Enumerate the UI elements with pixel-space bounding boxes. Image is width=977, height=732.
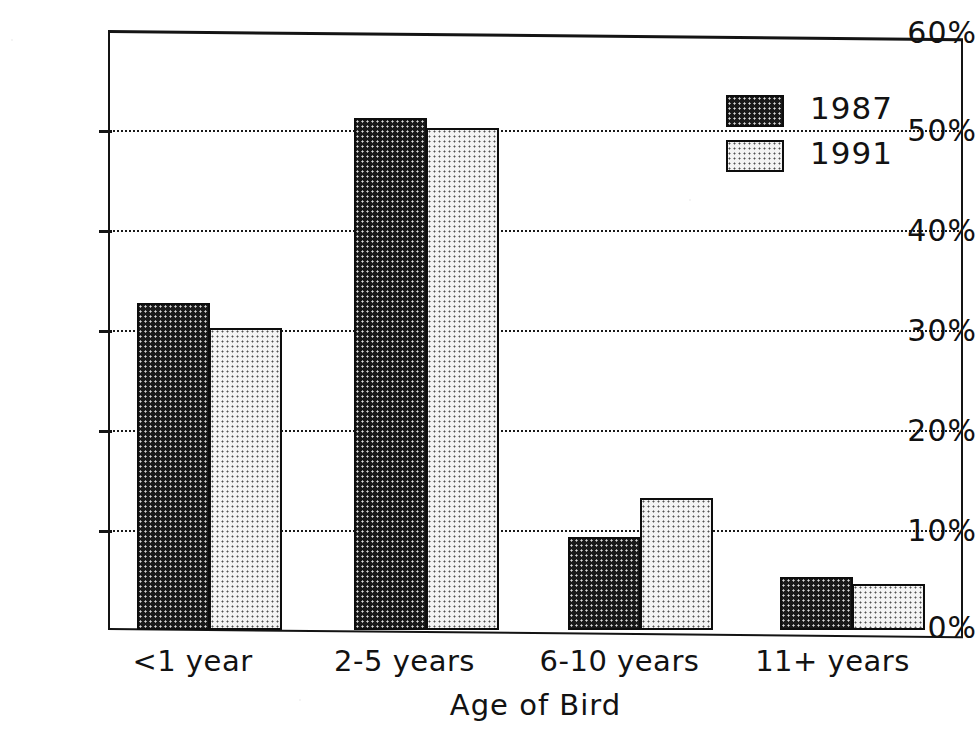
xcat-label-lt1year: <1 year bbox=[100, 644, 285, 678]
ytick-label-30: 30% bbox=[881, 313, 977, 348]
x-axis-title: Age of Bird bbox=[108, 688, 963, 722]
ytick-label-40: 40% bbox=[881, 213, 977, 248]
bar-1991-lt1year[interactable] bbox=[209, 328, 282, 630]
bar-1987-6to10years[interactable] bbox=[568, 537, 641, 630]
bar-1987-11plusyears[interactable] bbox=[780, 577, 853, 630]
legend-swatch-1991 bbox=[726, 140, 784, 172]
ytick-mark-50 bbox=[99, 130, 112, 133]
bar-1987-lt1year[interactable] bbox=[137, 303, 210, 630]
legend-row-1987[interactable]: 1987 bbox=[726, 92, 941, 137]
legend-row-1991[interactable]: 1991 bbox=[726, 137, 941, 182]
xcat-label-6to10years: 6-10 years bbox=[527, 644, 712, 678]
xcat-label-2to5years: 2-5 years bbox=[312, 644, 497, 678]
ytick-mark-20 bbox=[99, 430, 112, 433]
legend-label-1987: 1987 bbox=[810, 90, 893, 126]
legend: 1987 1991 bbox=[726, 92, 941, 182]
legend-label-1991: 1991 bbox=[810, 135, 893, 171]
gridline-40 bbox=[108, 230, 963, 232]
ytick-label-20: 20% bbox=[881, 413, 977, 448]
bar-1991-2to5years[interactable] bbox=[426, 128, 499, 630]
ytick-mark-10 bbox=[99, 530, 112, 533]
ytick-label-60: 60% bbox=[881, 15, 977, 50]
chart-title bbox=[0, 0, 977, 3]
ytick-mark-40 bbox=[99, 230, 112, 233]
xcat-label-11plusyears: 11+ years bbox=[740, 644, 925, 678]
bar-1987-2to5years[interactable] bbox=[354, 118, 427, 630]
bar-1991-6to10years[interactable] bbox=[640, 498, 713, 630]
ytick-mark-30 bbox=[99, 330, 112, 333]
ytick-label-10: 10% bbox=[881, 513, 977, 548]
ytick-label-0: 0% bbox=[881, 610, 977, 645]
legend-swatch-1987 bbox=[726, 95, 784, 127]
